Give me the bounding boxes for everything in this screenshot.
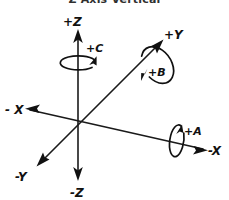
plus-z-label: +Z xyxy=(63,15,82,29)
rotation-b-arrowhead-icon xyxy=(141,68,147,81)
plus-x-label: -X xyxy=(208,144,222,158)
minus-x-label: - X xyxy=(5,103,24,117)
minus-y-label: -Y xyxy=(15,170,28,184)
axes-svg-canvas: +Z -Z +Y -Y -X - X +C +B +A xyxy=(0,0,229,200)
z-axis-group xyxy=(73,29,83,181)
rotation-b-group xyxy=(135,41,180,90)
y-axis-line xyxy=(41,44,159,162)
coordinate-axes-diagram: Z Axis Vertical xyxy=(0,0,229,200)
plus-x-arrowhead-icon xyxy=(193,146,208,155)
x-axis-line xyxy=(30,110,203,149)
y-axis-group xyxy=(37,40,164,167)
minus-z-label: -Z xyxy=(70,186,84,200)
plus-y-label: +Y xyxy=(164,28,184,42)
rotation-b-arc xyxy=(135,41,180,90)
rotation-c-label: +C xyxy=(86,42,103,55)
minus-x-arrowhead-icon xyxy=(25,104,40,113)
rotation-a-label: +A xyxy=(184,125,202,138)
rotation-b-label: +B xyxy=(148,66,166,79)
